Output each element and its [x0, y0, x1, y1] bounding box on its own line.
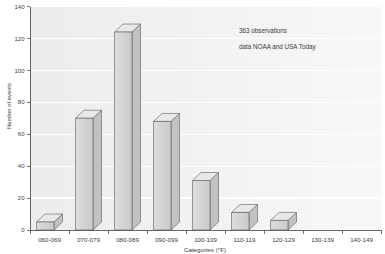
y-tick-label: 120 — [14, 36, 25, 42]
bar-chart-canvas: 020406080100120140060-069070-079080-0890… — [0, 0, 385, 254]
x-category-label: 100-109 — [194, 236, 217, 243]
bar-front-face — [37, 222, 55, 230]
bar-front-face — [76, 118, 94, 230]
bar-080-089 — [115, 24, 141, 230]
x-category-label: 140-149 — [350, 236, 373, 243]
x-category-label: 130-139 — [311, 236, 334, 243]
y-tick-label: 140 — [14, 4, 25, 10]
histogram-figure: 020406080100120140060-069070-079080-0890… — [0, 0, 385, 254]
x-category-label: 080-089 — [116, 236, 139, 243]
x-category-label: 110-119 — [234, 236, 256, 243]
bar-front-face — [193, 181, 211, 230]
bar-side-face — [171, 113, 180, 230]
y-tick-label: 80 — [18, 99, 25, 105]
bar-side-face — [93, 110, 102, 230]
bar-front-face — [271, 220, 289, 230]
bar-side-face — [210, 173, 219, 230]
bar-070-079 — [76, 110, 102, 230]
bar-front-face — [232, 212, 250, 230]
bar-side-face — [132, 24, 141, 230]
y-tick-label: 60 — [18, 131, 25, 137]
y-axis-title: Number of events — [6, 83, 13, 129]
bar-090-099 — [154, 113, 180, 230]
y-tick-label: 40 — [18, 163, 25, 169]
y-tick-label: 100 — [14, 68, 25, 74]
x-category-label: 090-099 — [155, 236, 178, 243]
observation-count-annotation: 363 observations — [239, 27, 287, 34]
data-source-annotation: data NOAA and USA Today — [239, 43, 316, 50]
x-category-label: 070-079 — [77, 236, 100, 243]
x-category-label: 060-069 — [38, 236, 61, 243]
y-tick-label: 0 — [21, 227, 25, 233]
bar-front-face — [154, 121, 172, 230]
x-axis-title: Categories (°F) — [184, 246, 226, 253]
y-tick-label: 20 — [18, 195, 25, 201]
bar-100-109 — [193, 173, 219, 230]
bar-front-face — [115, 32, 133, 230]
x-category-label: 120-129 — [272, 236, 295, 243]
